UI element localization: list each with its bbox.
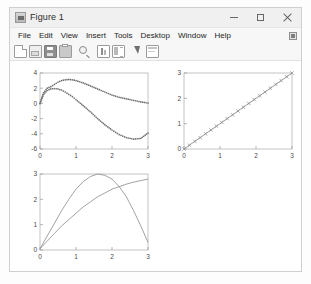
menu-item-insert[interactable]: Insert — [82, 28, 110, 43]
menu-item-edit[interactable]: Edit — [35, 28, 57, 43]
svg-text:1: 1 — [74, 253, 78, 260]
svg-text:1: 1 — [74, 152, 78, 159]
figure-window: Figure 1 File Edit View Insert Tools Des… — [9, 7, 302, 272]
minimize-icon — [230, 17, 238, 18]
svg-text:2: 2 — [33, 85, 37, 92]
svg-text:3: 3 — [146, 152, 150, 159]
print-figure-button[interactable] — [58, 45, 72, 58]
figure-canvas[interactable]: 0123420-2-4-6 01230123 01230123 — [10, 61, 301, 271]
svg-text:0: 0 — [33, 100, 37, 107]
svg-text:0: 0 — [33, 246, 37, 253]
menu-item-tools[interactable]: Tools — [110, 28, 137, 43]
svg-text:0: 0 — [38, 152, 42, 159]
close-icon — [283, 13, 292, 22]
insert-legend-icon — [146, 45, 159, 58]
window-title: Figure 1 — [30, 8, 64, 27]
matlab-figure-icon — [15, 12, 26, 23]
axes-top-left[interactable]: 0123420-2-4-6 — [18, 65, 154, 165]
menu-item-view[interactable]: View — [57, 28, 82, 43]
svg-text:3: 3 — [177, 69, 181, 76]
svg-text:0: 0 — [38, 253, 42, 260]
svg-text:2: 2 — [177, 95, 181, 102]
svg-text:0: 0 — [182, 152, 186, 159]
data-cursor-icon — [97, 45, 110, 58]
svg-text:3: 3 — [146, 253, 150, 260]
window-controls — [220, 8, 301, 27]
svg-text:1: 1 — [33, 221, 37, 228]
save-figure-icon — [44, 45, 57, 58]
svg-text:-2: -2 — [31, 115, 37, 122]
data-cursor-button[interactable] — [96, 45, 110, 58]
maximize-button[interactable] — [247, 8, 274, 27]
open-file-icon — [29, 45, 42, 58]
maximize-icon — [257, 14, 264, 21]
new-figure-icon — [14, 45, 27, 58]
svg-text:2: 2 — [110, 253, 114, 260]
svg-text:2: 2 — [254, 152, 258, 159]
svg-text:2: 2 — [110, 152, 114, 159]
colorbar-icon — [112, 45, 125, 58]
dock-figure-icon[interactable] — [289, 32, 297, 40]
close-button[interactable] — [274, 8, 301, 27]
zoom-in-button[interactable] — [77, 45, 91, 58]
title-bar: Figure 1 — [10, 8, 301, 28]
svg-text:1: 1 — [177, 120, 181, 127]
toolbar — [10, 43, 301, 61]
menu-item-desktop[interactable]: Desktop — [137, 28, 174, 43]
menu-item-help[interactable]: Help — [210, 28, 234, 43]
minimize-button[interactable] — [220, 8, 247, 27]
new-figure-button[interactable] — [13, 45, 27, 58]
menu-item-file[interactable]: File — [14, 28, 35, 43]
colorbar-button[interactable] — [111, 45, 125, 58]
edit-plot-button[interactable] — [130, 45, 144, 58]
svg-text:4: 4 — [33, 69, 37, 76]
svg-text:0: 0 — [177, 145, 181, 152]
open-file-button[interactable] — [28, 45, 42, 58]
menu-item-window[interactable]: Window — [174, 28, 210, 43]
svg-text:3: 3 — [290, 152, 294, 159]
menu-bar: File Edit View Insert Tools Desktop Wind… — [10, 28, 301, 43]
svg-text:-4: -4 — [31, 130, 37, 137]
svg-text:1: 1 — [218, 152, 222, 159]
svg-text:2: 2 — [33, 196, 37, 203]
print-figure-icon — [59, 45, 72, 58]
edit-plot-pointer-icon — [132, 46, 143, 57]
axes-bottom-left[interactable]: 01230123 — [18, 166, 154, 266]
save-figure-button[interactable] — [43, 45, 57, 58]
svg-text:-6: -6 — [31, 145, 37, 152]
axes-top-right[interactable]: 01230123 — [162, 65, 298, 165]
zoom-in-icon — [79, 46, 90, 57]
svg-text:3: 3 — [33, 170, 37, 177]
insert-legend-button[interactable] — [145, 45, 159, 58]
